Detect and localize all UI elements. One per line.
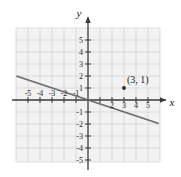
- plotted-point: [122, 86, 126, 90]
- x-tick-label: -3: [49, 89, 56, 98]
- x-axis-letter: x: [169, 96, 175, 108]
- y-tick-label: 4: [79, 48, 83, 57]
- x-tick-label: -2: [61, 89, 68, 98]
- y-axis-arrow: [85, 16, 90, 23]
- x-tick-label: -4: [37, 89, 44, 98]
- point-annotation-label: (3, 1): [127, 74, 149, 86]
- y-tick-label: -2: [76, 120, 83, 129]
- y-tick-label: -3: [76, 132, 83, 141]
- coordinate-plane-figure: -5 -4 -3 -2 -1 2 3 4 5 5 4 3 2 1 -1 -2 -…: [0, 0, 181, 177]
- y-tick-label: 5: [79, 36, 83, 45]
- x-tick-label: 5: [146, 101, 150, 110]
- graph-canvas: -5 -4 -3 -2 -1 2 3 4 5 5 4 3 2 1 -1 -2 -…: [0, 0, 181, 177]
- x-axis-arrow: [160, 97, 166, 102]
- y-tick-label: 3: [79, 60, 83, 69]
- x-tick-label: 2: [110, 101, 114, 110]
- y-axis-letter: y: [76, 7, 82, 19]
- x-tick-label: -5: [25, 89, 32, 98]
- y-tick-label: 1: [79, 84, 83, 93]
- y-tick-label: -5: [76, 156, 83, 165]
- y-tick-label: -4: [76, 144, 83, 153]
- y-tick-label: 2: [79, 72, 83, 81]
- x-tick-label: 4: [134, 101, 138, 110]
- y-tick-label: -1: [76, 108, 83, 117]
- x-tick-label: 3: [122, 101, 126, 110]
